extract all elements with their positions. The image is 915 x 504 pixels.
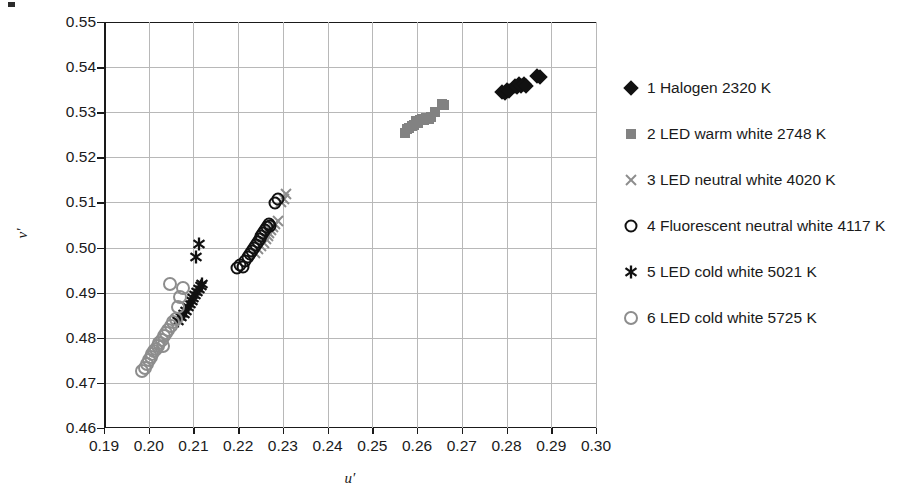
y-axis-tick — [97, 248, 104, 249]
chart-legend: 1 Halogen 2320 K2 LED warm white 2748 K3… — [622, 78, 907, 354]
legend-marker — [622, 124, 644, 143]
gridline-horizontal — [104, 338, 596, 339]
y-tick-label: 0.49 — [44, 284, 96, 302]
legend-item-label: 4 Fluorescent neutral white 4117 K — [644, 216, 885, 235]
gridline-vertical — [551, 22, 552, 428]
gridline-vertical — [149, 22, 150, 428]
legend-item-label: 2 LED warm white 2748 K — [644, 124, 826, 143]
gridline-vertical — [328, 22, 329, 428]
y-axis-tick — [97, 383, 104, 384]
x-axis-title: u′ — [104, 470, 596, 487]
gridline-horizontal — [104, 67, 596, 68]
x-axis-tick — [462, 428, 463, 434]
scatter-chart-figure: 0.190.200.210.220.230.240.250.260.270.28… — [0, 0, 915, 504]
x-axis-tick — [238, 428, 239, 434]
x-tick-label: 0.30 — [581, 437, 611, 455]
y-tick-label: 0.55 — [44, 13, 96, 31]
x-axis-tick — [507, 428, 508, 434]
legend-marker — [622, 308, 644, 327]
legend-item[interactable]: 1 Halogen 2320 K — [622, 78, 907, 98]
y-axis-tick — [97, 67, 104, 68]
x-axis-tick — [193, 428, 194, 434]
y-tick-label: 0.54 — [44, 58, 96, 76]
legend-item-label: 5 LED cold white 5021 K — [644, 262, 817, 281]
legend-item[interactable]: 2 LED warm white 2748 K — [622, 124, 907, 144]
x-tick-label: 0.27 — [447, 437, 477, 455]
marker-diamond-icon — [623, 80, 639, 96]
legend-item[interactable]: 4 Fluorescent neutral white 4117 K — [622, 216, 907, 236]
legend-item[interactable]: 3 LED neutral white 4020 K — [622, 170, 907, 190]
y-tick-label: 0.46 — [44, 419, 96, 437]
x-tick-label: 0.28 — [491, 437, 521, 455]
x-axis-tick — [596, 428, 597, 434]
legend-item[interactable]: 6 LED cold white 5725 K — [622, 308, 907, 328]
marker-x-cross-icon — [624, 173, 638, 187]
gridline-vertical — [193, 22, 194, 428]
y-axis-tick — [97, 22, 104, 23]
x-axis-tick — [283, 428, 284, 434]
x-tick-label: 0.29 — [536, 437, 566, 455]
gridline-horizontal — [104, 383, 596, 384]
legend-item-label: 6 LED cold white 5725 K — [644, 308, 817, 327]
legend-item[interactable]: 5 LED cold white 5021 K — [622, 262, 907, 282]
legend-item-label: 1 Halogen 2320 K — [644, 78, 771, 97]
x-axis-tick — [372, 428, 373, 434]
marker-circle-open-icon — [625, 220, 638, 233]
legend-marker — [622, 170, 644, 189]
gridline-vertical — [462, 22, 463, 428]
y-tick-label: 0.48 — [44, 329, 96, 347]
y-axis-line — [104, 22, 106, 428]
y-axis-tick — [97, 202, 104, 203]
marker-circle-open-icon — [624, 311, 638, 325]
gridline-vertical — [238, 22, 239, 428]
gridline-horizontal — [104, 157, 596, 158]
legend-marker — [622, 262, 644, 281]
y-tick-label: 0.47 — [44, 374, 96, 392]
marker-asterisk-icon — [624, 265, 639, 280]
y-axis-tick — [97, 338, 104, 339]
x-tick-label: 0.20 — [134, 437, 164, 455]
legend-marker — [622, 216, 644, 235]
gridline-horizontal — [104, 293, 596, 294]
y-axis-tick — [97, 157, 104, 158]
y-axis-tick — [97, 428, 104, 429]
x-tick-label: 0.21 — [178, 437, 208, 455]
scan-artifact — [8, 2, 15, 7]
gridline-vertical — [507, 22, 508, 428]
x-tick-label: 0.22 — [223, 437, 253, 455]
legend-marker — [622, 78, 644, 97]
gridline-horizontal — [104, 112, 596, 113]
x-tick-label: 0.19 — [89, 437, 119, 455]
x-axis-tick — [417, 428, 418, 434]
gridline-vertical — [283, 22, 284, 428]
y-tick-label: 0.51 — [44, 193, 96, 211]
gridline-vertical — [596, 22, 597, 428]
x-axis-tick — [328, 428, 329, 434]
plot-area — [104, 22, 596, 428]
x-tick-label: 0.26 — [402, 437, 432, 455]
gridline-vertical — [417, 22, 418, 428]
y-tick-label: 0.53 — [44, 103, 96, 121]
x-tick-label: 0.25 — [357, 437, 387, 455]
y-axis-tick — [97, 293, 104, 294]
x-tick-label: 0.24 — [313, 437, 343, 455]
y-axis-tick — [97, 112, 104, 113]
x-axis-tick — [104, 428, 105, 434]
y-axis-title: v′ — [14, 229, 31, 239]
legend-item-label: 3 LED neutral white 4020 K — [644, 170, 836, 189]
x-axis-tick — [551, 428, 552, 434]
gridline-horizontal — [104, 248, 596, 249]
plot-frame — [104, 22, 596, 428]
x-tick-label: 0.23 — [268, 437, 298, 455]
gridline-vertical — [372, 22, 373, 428]
y-tick-label: 0.50 — [44, 239, 96, 257]
x-axis-tick — [149, 428, 150, 434]
y-tick-label: 0.52 — [44, 148, 96, 166]
marker-square-icon — [626, 129, 636, 139]
gridline-horizontal — [104, 202, 596, 203]
